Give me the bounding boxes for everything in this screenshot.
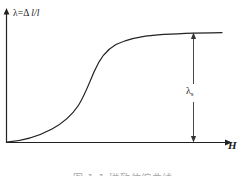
figure-caption: 图 1-1 磁致伸缩曲线 <box>73 173 173 176</box>
y-axis-label-fraction: l/l <box>31 8 39 18</box>
x-axis-label: H <box>228 140 237 151</box>
saturation-label-subscript: s <box>191 90 194 98</box>
saturation-magnetostriction-label: λs <box>186 86 194 98</box>
magnetostriction-plot <box>0 0 246 176</box>
y-axis <box>4 8 10 143</box>
y-axis-arrowhead <box>4 8 10 15</box>
figure-container: λ=Δ l/l H λs 图 1-1 磁致伸缩曲线 <box>0 0 246 176</box>
y-axis-label: λ=Δ l/l <box>13 9 40 19</box>
y-axis-label-prefix: λ=Δ <box>13 8 31 18</box>
x-axis <box>6 140 232 146</box>
figure-caption-row: 图 1-1 磁致伸缩曲线 <box>0 169 246 176</box>
lambda-s-arrowhead-bottom <box>191 136 196 142</box>
